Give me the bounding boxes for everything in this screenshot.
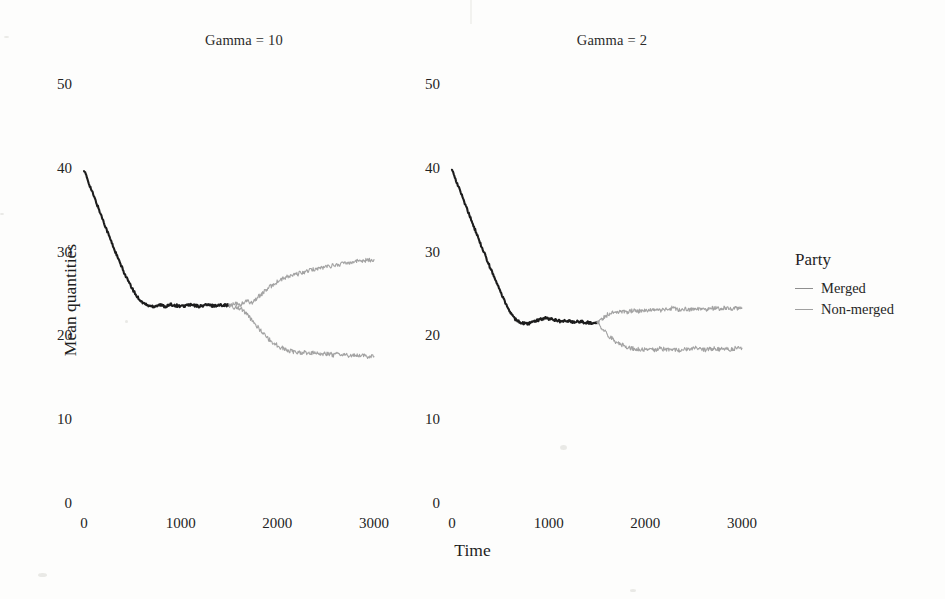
y-tick-label: 50 [400,76,440,93]
x-tick-label: 1000 [141,515,221,532]
y-tick-label: 20 [400,327,440,344]
x-tick-label: 1000 [509,515,589,532]
series-line-merged [84,171,229,307]
legend-item-label: Merged [821,280,866,297]
legend-item-non-merged[interactable]: Non-merged [795,301,894,318]
scan-speckle [38,573,47,577]
x-tick-label: 2000 [605,515,685,532]
chart-svg [84,60,374,500]
x-tick-label: 2000 [237,515,317,532]
y-tick-label: 10 [400,411,440,428]
y-tick-label: 30 [400,244,440,261]
x-tick-label: 0 [44,515,124,532]
legend-items: MergedNon-merged [795,280,894,318]
y-tick-label: 0 [400,495,440,512]
x-axis-title: Time [0,540,945,561]
plot-panel-gamma-10 [84,60,374,500]
legend-item-merged[interactable]: Merged [795,280,894,297]
y-tick-label: 40 [32,160,72,177]
scan-speckle [630,589,636,592]
x-tick-label: 0 [412,515,492,532]
chart-svg [452,60,742,500]
legend-title: Party [795,250,894,270]
y-tick-label: 50 [32,76,72,93]
legend-key-line-icon [795,309,813,310]
y-tick-label: 30 [32,244,72,261]
x-tick-label: 3000 [702,515,782,532]
scan-smudge [470,0,472,24]
facet-title-left: Gamma = 10 [144,32,344,49]
y-tick-label: 20 [32,327,72,344]
scan-speckle [4,36,9,38]
series-line-non-merged-lower [597,322,742,352]
y-tick-label: 10 [32,411,72,428]
series-line-non-merged-lower [229,304,374,359]
plot-panel-gamma-2 [452,60,742,500]
legend-item-label: Non-merged [821,301,894,318]
series-line-non-merged-upper [229,258,374,306]
x-tick-label: 3000 [334,515,414,532]
legend-key-line-icon [795,288,813,289]
y-tick-label: 0 [32,495,72,512]
facet-title-right: Gamma = 2 [512,32,712,49]
legend: Party MergedNon-merged [795,250,894,318]
y-tick-label: 40 [400,160,440,177]
series-line-non-merged-upper [597,306,742,324]
scan-speckle [0,213,4,215]
series-line-merged [452,170,597,325]
